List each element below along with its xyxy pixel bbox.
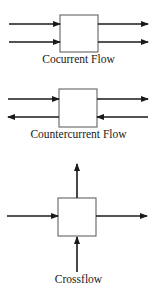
crossflow-label: Crossflow (0, 273, 157, 285)
cocurrent-box (60, 15, 98, 52)
flow-diagrams (0, 0, 157, 288)
countercurrent-label: Countercurrent Flow (0, 128, 157, 140)
crossflow-diagram (7, 164, 147, 272)
cocurrent-diagram (9, 15, 148, 52)
countercurrent-diagram (8, 89, 148, 127)
crossflow-box (58, 198, 96, 236)
cocurrent-label: Cocurrent Flow (0, 53, 157, 65)
countercurrent-box (59, 89, 97, 127)
